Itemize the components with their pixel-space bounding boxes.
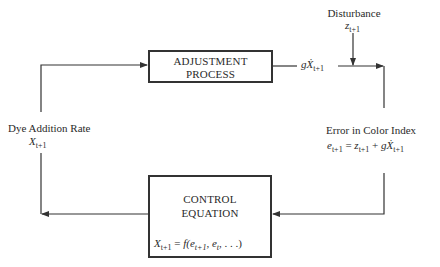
feedback-control-diagram: ADJUSTMENT PROCESS CONTROL EQUATION Xt+1… [0, 0, 440, 267]
process-output-label: gẊt+1 [301, 58, 324, 73]
dye-addition-rate-symbol: Xt+1 [29, 135, 46, 150]
control-title-line1: CONTROL [150, 192, 270, 206]
dye-addition-rate-label: Dye Addition Rate [8, 122, 91, 135]
arrow-dye-rate-to-adjustment [41, 65, 147, 112]
adjustment-title-line1: ADJUSTMENT [150, 54, 271, 68]
error-equation: et+1 = zt+1 + gẊt+1 [327, 139, 404, 154]
control-formula: Xt+1 = f(et+1, et, . . .) [154, 237, 242, 252]
error-label: Error in Color Index [326, 124, 416, 137]
adjustment-title-line2: PROCESS [150, 67, 271, 81]
control-title-line2: EQUATION [150, 206, 270, 220]
arrow-error-to-control [273, 173, 384, 214]
disturbance-symbol: zt+1 [345, 19, 360, 34]
adjustment-process-block: ADJUSTMENT PROCESS [148, 50, 273, 83]
control-equation-block: CONTROL EQUATION Xt+1 = f(et+1, et, . . … [148, 175, 272, 258]
